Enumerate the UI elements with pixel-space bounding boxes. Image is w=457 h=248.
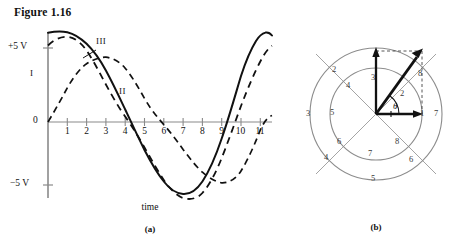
curve-label-III: III (96, 36, 106, 46)
panel-b-phasor-diagram: θ 1 2 3 4 5 6 7 8 2 3 4 5 6 7 8 (b) (296, 26, 457, 248)
panel-b-caption: (b) (346, 222, 406, 232)
inner-ring-number-2: 2 (397, 88, 407, 98)
y-axis-bottom-label: −5 V (10, 178, 29, 188)
outer-ring-number-6: 6 (406, 154, 416, 164)
curve-III-leader-line (83, 50, 96, 58)
inner-ring-number-8: 8 (392, 136, 402, 146)
x-axis-label: time (120, 202, 180, 212)
y-axis-origin-label: 0 (33, 115, 38, 125)
x-tick-label-3: 3 (99, 126, 113, 136)
curve-label-I: I (30, 68, 33, 78)
panel-a-caption: (a) (120, 224, 180, 234)
inner-ring-number-6: 6 (334, 136, 344, 146)
curve-I (48, 57, 272, 183)
x-tick-label-9: 9 (215, 126, 229, 136)
outer-ring-number-7: 7 (431, 108, 441, 118)
figure-container: Figure 1.16 (0, 0, 457, 248)
outer-ring-number-8: 8 (415, 68, 425, 78)
outer-ring-number-4: 4 (321, 152, 331, 162)
horizontal-phasor-arrow (376, 110, 423, 117)
outer-ring-number-5: 5 (368, 173, 378, 183)
x-tick-label-5: 5 (138, 126, 152, 136)
x-tick-label-7: 7 (176, 126, 190, 136)
x-tick-label-1: 1 (60, 126, 74, 136)
x-tick-label-8: 8 (195, 126, 209, 136)
inner-ring-number-5: 5 (327, 107, 337, 117)
phasor-plot (296, 26, 457, 248)
panel-a-waveform-chart: +5 V 0 −5 V 1 2 3 4 5 6 7 8 9 10 11 I II… (0, 18, 300, 248)
figure-title: Figure 1.16 (14, 6, 72, 18)
curve-label-II: II (119, 86, 126, 96)
x-tick-label-6: 6 (157, 126, 171, 136)
x-tick-label-11: 11 (253, 126, 267, 136)
outer-ring-number-3: 3 (303, 108, 313, 118)
x-tick-label-2: 2 (80, 126, 94, 136)
inner-ring-number-7: 7 (365, 148, 375, 158)
inner-ring-number-3: 3 (368, 72, 378, 82)
outer-ring-number-1: 1 (417, 108, 427, 118)
y-axis-top-label: +5 V (8, 41, 27, 51)
x-tick-label-10: 10 (234, 126, 248, 136)
rotating-phasor-arrow (376, 49, 423, 115)
x-tick-label-4: 4 (118, 126, 132, 136)
inner-ring-number-4: 4 (343, 80, 353, 90)
theta-label: θ (393, 101, 397, 111)
curve-III (48, 31, 272, 194)
outer-ring-number-2: 2 (329, 64, 339, 74)
